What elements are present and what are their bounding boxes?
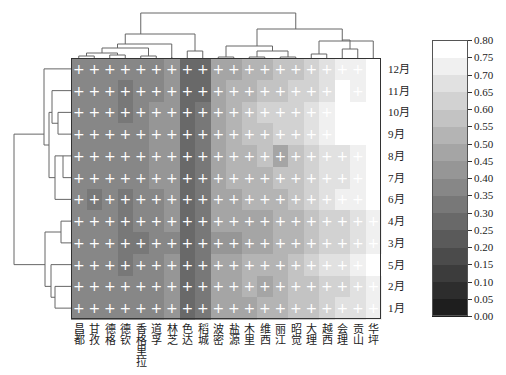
plus-marker-icon: +	[134, 301, 148, 315]
plus-marker-icon: +	[165, 214, 179, 228]
plus-marker-icon: +	[351, 171, 365, 185]
plus-marker-icon: +	[211, 236, 225, 250]
plus-marker-icon: +	[351, 258, 365, 272]
plus-marker-icon: +	[118, 84, 132, 98]
plus-marker-icon: +	[180, 62, 194, 76]
colorbar-tick-mark	[468, 92, 472, 93]
plus-marker-icon: +	[227, 127, 241, 141]
colorbar-tick-mark	[468, 109, 472, 110]
plus-marker-icon: +	[273, 84, 287, 98]
plus-marker-icon: +	[304, 127, 318, 141]
plus-marker-icon: +	[103, 62, 117, 76]
row-label: 7月	[388, 172, 405, 184]
colorbar-tick-mark	[468, 161, 472, 162]
column-label: 盐源	[228, 323, 240, 345]
colorbar-segment	[432, 144, 468, 162]
plus-marker-icon: +	[165, 279, 179, 293]
plus-marker-icon: +	[227, 279, 241, 293]
colorbar-tick-label: 0.00	[474, 310, 493, 322]
plus-marker-icon: +	[320, 236, 334, 250]
colorbar-segment	[432, 178, 468, 196]
plus-marker-icon: +	[304, 192, 318, 206]
plus-marker-icon: +	[211, 171, 225, 185]
plus-marker-icon: +	[196, 236, 210, 250]
plus-marker-icon: +	[335, 84, 349, 98]
plus-marker-icon: +	[87, 105, 101, 119]
colorbar-segment	[432, 109, 468, 127]
plus-marker-icon: +	[242, 301, 256, 315]
plus-marker-icon: +	[366, 192, 380, 206]
row-label: 3月	[388, 237, 405, 249]
plus-marker-icon: +	[180, 301, 194, 315]
colorbar-tick-label: 0.65	[474, 86, 493, 98]
plus-marker-icon: +	[165, 192, 179, 206]
plus-marker-icon: +	[242, 84, 256, 98]
plus-marker-icon: +	[227, 62, 241, 76]
plus-marker-icon: +	[211, 62, 225, 76]
plus-marker-icon: +	[258, 84, 272, 98]
column-label: 华坪	[367, 323, 379, 345]
plus-marker-icon: +	[211, 301, 225, 315]
colorbar-segment	[432, 75, 468, 93]
column-label: 波密	[212, 323, 224, 345]
row-label: 5月	[388, 259, 405, 271]
plus-marker-icon: +	[258, 149, 272, 163]
colorbar-segment	[432, 213, 468, 231]
plus-marker-icon: +	[258, 62, 272, 76]
plus-marker-icon: +	[134, 236, 148, 250]
plus-marker-icon: +	[335, 301, 349, 315]
plus-marker-icon: +	[103, 149, 117, 163]
plus-marker-icon: +	[366, 149, 380, 163]
colorbar-tick-label: 0.20	[474, 241, 493, 253]
plus-marker-icon: +	[242, 214, 256, 228]
plus-marker-icon: +	[165, 62, 179, 76]
row-label: 2月	[388, 280, 405, 292]
plus-marker-icon: +	[180, 105, 194, 119]
plus-marker-icon: +	[258, 236, 272, 250]
plus-marker-icon: +	[289, 258, 303, 272]
plus-marker-icon: +	[211, 258, 225, 272]
plus-marker-icon: +	[242, 62, 256, 76]
plus-marker-icon: +	[366, 84, 380, 98]
plus-marker-icon: +	[180, 279, 194, 293]
plus-marker-icon: +	[103, 301, 117, 315]
plus-marker-icon: +	[180, 214, 194, 228]
plus-marker-icon: +	[351, 84, 365, 98]
plus-marker-icon: +	[149, 105, 163, 119]
plus-marker-icon: +	[289, 62, 303, 76]
plus-marker-icon: +	[304, 301, 318, 315]
plus-marker-icon: +	[72, 236, 86, 250]
plus-marker-icon: +	[134, 127, 148, 141]
plus-marker-icon: +	[118, 62, 132, 76]
plus-marker-icon: +	[320, 279, 334, 293]
colorbar-tick-label: 0.35	[474, 189, 493, 201]
plus-marker-icon: +	[351, 214, 365, 228]
plus-marker-icon: +	[118, 149, 132, 163]
plus-marker-icon: +	[351, 62, 365, 76]
plus-marker-icon: +	[242, 149, 256, 163]
plus-marker-icon: +	[87, 84, 101, 98]
plus-marker-icon: +	[227, 214, 241, 228]
colorbar-tick-mark	[468, 178, 472, 179]
plus-marker-icon: +	[304, 279, 318, 293]
plus-marker-icon: +	[289, 192, 303, 206]
column-label: 维西	[259, 323, 271, 345]
plus-marker-icon: +	[196, 127, 210, 141]
colorbar-tick-mark	[468, 57, 472, 58]
plus-marker-icon: +	[149, 301, 163, 315]
colorbar-tick-label: 0.75	[474, 51, 493, 63]
plus-marker-icon: +	[242, 127, 256, 141]
colorbar-tick-label: 0.80	[474, 34, 493, 46]
plus-marker-icon: +	[258, 127, 272, 141]
column-label: 色达	[181, 323, 193, 345]
plus-marker-icon: +	[304, 84, 318, 98]
plus-marker-icon: +	[304, 258, 318, 272]
colorbar-tick-mark	[468, 316, 472, 317]
column-label: 稻城	[197, 323, 209, 345]
plus-marker-icon: +	[351, 236, 365, 250]
plus-marker-icon: +	[196, 62, 210, 76]
colorbar-segment	[432, 282, 468, 300]
plus-marker-icon: +	[242, 279, 256, 293]
plus-marker-icon: +	[335, 149, 349, 163]
plus-marker-icon: +	[72, 149, 86, 163]
